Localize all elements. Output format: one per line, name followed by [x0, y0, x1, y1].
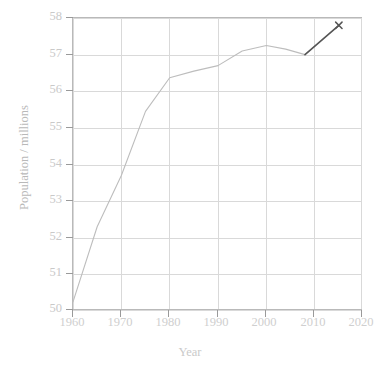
chart-title-clipped [60, 0, 340, 3]
y-tick-label: 51 [22, 266, 62, 279]
y-axis-title: Population / millions [17, 68, 32, 248]
x-axis-title: Year [0, 345, 380, 360]
series-line [305, 25, 339, 54]
y-tick [66, 164, 73, 165]
plot-area [72, 17, 362, 310]
x-tick-label: 1990 [193, 316, 239, 329]
y-tick [66, 127, 73, 128]
y-tick [66, 54, 73, 55]
x-tick-label: 1960 [49, 316, 95, 329]
data-lines [73, 18, 363, 311]
y-tick [66, 237, 73, 238]
series-line [73, 45, 305, 301]
y-tick-label: 57 [22, 47, 62, 60]
y-tick [66, 90, 73, 91]
y-tick-label: 50 [22, 302, 62, 315]
y-tick [66, 273, 73, 274]
y-tick [66, 17, 73, 18]
x-tick-label: 2010 [290, 316, 336, 329]
chart-figure: 58 57 56 55 54 53 52 51 50 1960 1970 198… [0, 0, 380, 370]
y-tick [66, 200, 73, 201]
x-tick-label: 1980 [145, 316, 191, 329]
x-tick-label: 2000 [241, 316, 287, 329]
x-tick-label: 2020 [338, 316, 380, 329]
x-tick-label: 1970 [97, 316, 143, 329]
y-tick-label: 58 [22, 10, 62, 23]
